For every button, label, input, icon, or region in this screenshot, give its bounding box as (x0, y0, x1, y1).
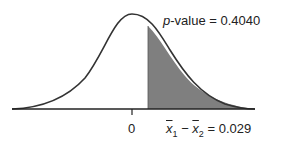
difference-of-means-label: x1 − x2 = 0.029 (166, 121, 251, 139)
p-value-label: p-value = 0.4040 (163, 13, 260, 28)
normal-curve (12, 14, 255, 109)
shaded-right-tail (148, 26, 255, 109)
zero-tick-label: 0 (128, 121, 135, 136)
